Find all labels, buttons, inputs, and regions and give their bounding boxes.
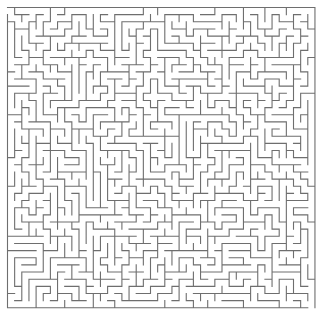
maze-canvas	[0, 0, 322, 310]
